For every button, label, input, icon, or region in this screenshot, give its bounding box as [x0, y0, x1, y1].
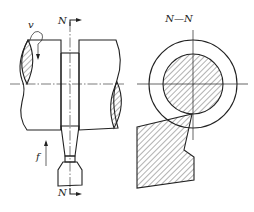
arrowhead-icon: [44, 140, 48, 146]
break-hatch-left: [22, 40, 33, 84]
diagram-canvas: v f N N N—N: [0, 0, 254, 212]
feed-label: f: [35, 151, 42, 162]
feed-arrow: f: [35, 140, 48, 166]
section-label-bottom: N: [57, 187, 68, 198]
section-view-title: N—N: [164, 13, 194, 24]
section-view: N—N: [137, 13, 248, 188]
arrowhead-icon: [36, 54, 40, 60]
workpiece-front-view: [20, 40, 121, 130]
break-hatch-right: [111, 82, 122, 128]
tool-section: [137, 114, 194, 188]
section-label-top: N: [57, 15, 68, 26]
section-marker-top: N: [57, 15, 82, 26]
arrowhead-icon: [76, 192, 82, 196]
section-marker-bottom: N: [57, 187, 82, 198]
velocity-label: v: [28, 19, 34, 30]
arrowhead-icon: [76, 18, 82, 22]
